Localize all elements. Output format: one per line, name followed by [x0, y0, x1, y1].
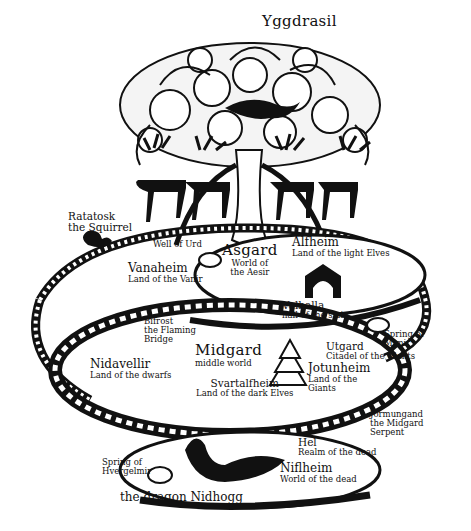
- niflheim-name: Niflheim: [280, 462, 357, 475]
- hel-subtitle: Realm of the dead: [298, 448, 377, 457]
- niflheim-subtitle: World of the dead: [280, 475, 357, 484]
- jormungand-label: Jormungand the Midgard Serpent: [370, 410, 424, 437]
- asgard-subtitle-2: the Aesir: [222, 268, 278, 277]
- ratatosk-subtitle: the Squirrel: [68, 222, 132, 233]
- spring-of-hvergelmir-label: Spring of Hvergelmir: [102, 458, 151, 476]
- nidavellir-name: Nidavellir: [90, 358, 171, 371]
- valhalla-label: Valhalla hall of the slain: [282, 300, 349, 320]
- asgard-name: Asgard: [222, 243, 278, 259]
- jotunheim-label: Jotunheim Land of the Giants: [308, 362, 370, 392]
- jotunheim-subtitle-2: Giants: [308, 384, 370, 393]
- midgard-subtitle: middle world: [195, 359, 262, 368]
- spring-of-hvergelmir-icon: [148, 467, 172, 483]
- alfheim-label: Alfheim Land of the light Elves: [292, 236, 390, 258]
- midgard-name: Midgard: [195, 343, 262, 359]
- alfheim-name: Alfheim: [292, 236, 390, 249]
- hel-label: Hel Realm of the dead: [298, 437, 377, 457]
- nidavellir-subtitle: Land of the dwarfs: [90, 371, 171, 380]
- svartalfheim-subtitle: Land of the dark Elves: [196, 389, 293, 398]
- nidavellir-label: Nidavellir Land of the dwarfs: [90, 358, 171, 380]
- niflheim-label: Niflheim World of the dead: [280, 462, 357, 484]
- utgard-label: Utgard Citadel of the Giants: [326, 341, 415, 361]
- svartalfheim-label: Svartalfheim Land of the dark Elves: [196, 378, 293, 398]
- jormungand-subtitle-2: Serpent: [370, 428, 424, 437]
- asgard-label: Asgard World of the Aesir: [222, 243, 278, 277]
- vanaheim-label: Vanaheim Land of the Vanir: [128, 262, 203, 284]
- bifrost-subtitle-2: Bridge: [144, 335, 196, 344]
- yggdrasil-label: Yggdrasil: [262, 14, 337, 30]
- alfheim-subtitle: Land of the light Elves: [292, 249, 390, 258]
- valhalla-subtitle: hall of the slain: [282, 311, 349, 320]
- well-of-urd-label: Well of Urd: [153, 240, 202, 249]
- hvergelmir-line2: Hvergelmir: [102, 467, 151, 476]
- vanaheim-subtitle: Land of the Vanir: [128, 275, 203, 284]
- ratatosk-label: Ratatosk the Squirrel: [68, 211, 132, 233]
- midgard-label: Midgard middle world: [195, 343, 262, 368]
- bifrost-label: Bifrost the Flaming Bridge: [144, 317, 196, 344]
- ratatosk-squirrel: [83, 231, 112, 248]
- nidhogg-label: the dragon Nidhogg: [120, 491, 243, 504]
- vanaheim-name: Vanaheim: [128, 262, 203, 275]
- utgard-subtitle: Citadel of the Giants: [326, 352, 415, 361]
- jotunheim-name: Jotunheim: [308, 362, 370, 375]
